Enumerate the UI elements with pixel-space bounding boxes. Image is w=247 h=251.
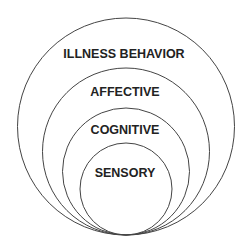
label-sensory: SENSORY bbox=[95, 166, 156, 180]
circle-sensory bbox=[80, 143, 172, 235]
label-cognitive: COGNITIVE bbox=[91, 123, 160, 137]
diagram-svg: ILLNESS BEHAVIOR AFFECTIVE COGNITIVE SEN… bbox=[0, 0, 247, 251]
label-illness-behavior: ILLNESS BEHAVIOR bbox=[63, 47, 184, 61]
label-affective: AFFECTIVE bbox=[90, 85, 159, 99]
nested-circles-diagram: ILLNESS BEHAVIOR AFFECTIVE COGNITIVE SEN… bbox=[0, 0, 247, 251]
